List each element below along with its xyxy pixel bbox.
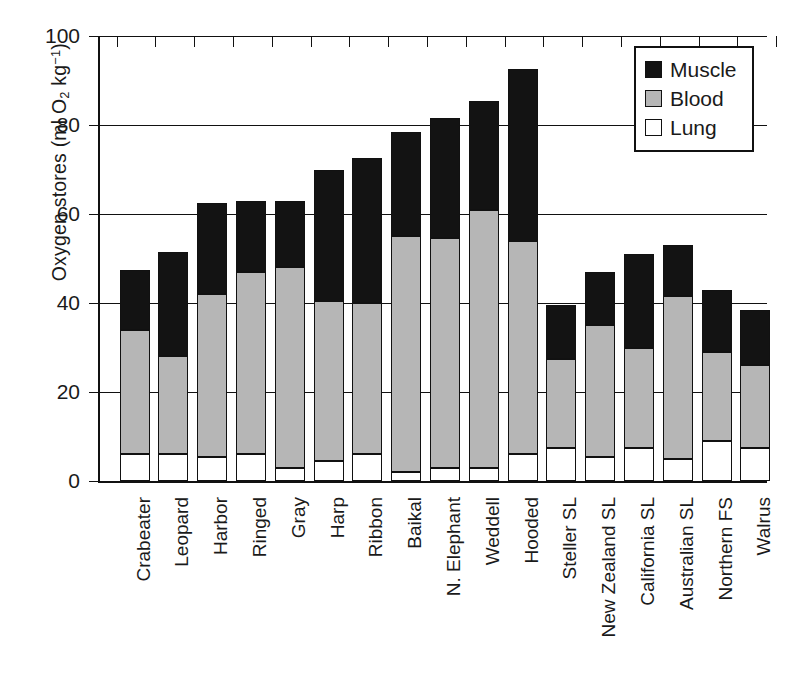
bar-hooded	[508, 69, 538, 481]
bar-segment-lung	[663, 459, 693, 481]
bar-ringed	[236, 201, 266, 481]
bar-segment-blood	[275, 267, 305, 467]
bar-segment-blood	[740, 365, 770, 447]
x-label-northern-fs: Northern FS	[715, 497, 737, 600]
x-tick-8	[427, 36, 428, 47]
bar-segment-lung	[275, 468, 305, 481]
x-label-harp: Harp	[327, 497, 349, 538]
legend-swatch-blood	[645, 90, 662, 107]
bar-segment-lung	[469, 468, 499, 481]
x-tick-6	[349, 36, 350, 47]
bar-segment-lung	[236, 454, 266, 481]
x-tick-11	[543, 36, 544, 47]
bar-leopard	[158, 252, 188, 481]
bar-segment-lung	[546, 448, 576, 481]
x-label-steller-sl: Steller SL	[559, 497, 581, 579]
x-label-australian-sl: Australian SL	[676, 497, 698, 610]
x-label-leopard: Leopard	[171, 497, 193, 567]
bar-segment-lung	[158, 454, 188, 481]
bar-segment-blood	[352, 303, 382, 454]
bar-segment-lung	[702, 441, 732, 481]
x-label-california-sl: California SL	[637, 497, 659, 606]
bar-segment-blood	[158, 356, 188, 454]
bar-segment-muscle	[508, 69, 538, 240]
bar-segment-lung	[197, 457, 227, 481]
legend-label-blood: Blood	[670, 88, 724, 109]
x-label-walrus: Walrus	[753, 497, 775, 555]
legend-item-blood: Blood	[645, 84, 744, 113]
bar-segment-lung	[508, 454, 538, 481]
bar-segment-muscle	[663, 245, 693, 296]
legend-item-muscle: Muscle	[645, 55, 744, 84]
legend-label-lung: Lung	[670, 117, 717, 138]
gridline-100	[100, 36, 767, 37]
x-tick-7	[388, 36, 389, 47]
legend: MuscleBloodLung	[634, 46, 754, 152]
x-tick-2	[194, 36, 195, 47]
x-tick-17	[776, 36, 777, 47]
bar-segment-muscle	[430, 118, 460, 238]
y-axis-title-mid: kg	[48, 65, 70, 92]
bar-segment-muscle	[585, 272, 615, 325]
bar-segment-lung	[120, 454, 150, 481]
x-tick-12	[582, 36, 583, 47]
bar-segment-lung	[740, 448, 770, 481]
x-label-harbor: Harbor	[210, 497, 232, 555]
y-tick-label-40: 40	[57, 291, 80, 315]
bar-segment-muscle	[740, 310, 770, 366]
x-tick-13	[621, 36, 622, 47]
bar-gray	[275, 201, 305, 481]
bar-segment-blood	[508, 241, 538, 455]
bar-segment-muscle	[275, 201, 305, 268]
bar-segment-blood	[469, 210, 499, 468]
bar-california-sl	[624, 254, 654, 481]
legend-item-lung: Lung	[645, 113, 744, 142]
bar-northern-fs	[702, 290, 732, 481]
bar-segment-blood	[314, 301, 344, 461]
bar-segment-blood	[702, 352, 732, 441]
bar-segment-blood	[430, 238, 460, 467]
x-label-crabeater: Crabeater	[133, 497, 155, 582]
y-tick-60: 60	[89, 214, 100, 215]
y-tick-label-0: 0	[68, 469, 80, 493]
bar-new-zealand-sl	[585, 272, 615, 481]
x-label-hooded: Hooded	[521, 497, 543, 564]
y-tick-100: 100	[89, 36, 100, 37]
bar-segment-blood	[197, 294, 227, 456]
bar-segment-blood	[585, 325, 615, 456]
x-label-n-elephant: N. Elephant	[443, 497, 465, 596]
bar-segment-blood	[546, 359, 576, 448]
y-tick-0: 0	[89, 481, 100, 482]
bar-segment-lung	[624, 448, 654, 481]
x-tick-10	[505, 36, 506, 47]
x-label-ribbon: Ribbon	[365, 497, 387, 557]
bar-segment-muscle	[546, 305, 576, 358]
bar-segment-lung	[430, 468, 460, 481]
bar-crabeater	[120, 270, 150, 481]
bar-segment-muscle	[314, 170, 344, 301]
legend-swatch-muscle	[645, 61, 662, 78]
x-label-baikal: Baikal	[404, 497, 426, 549]
x-label-new-zealand-sl: New Zealand SL	[598, 497, 620, 637]
x-tick-0	[117, 36, 118, 47]
x-tick-4	[272, 36, 273, 47]
bar-segment-blood	[120, 330, 150, 455]
x-label-gray: Gray	[288, 497, 310, 538]
bar-segment-blood	[663, 296, 693, 458]
bar-segment-muscle	[197, 203, 227, 294]
bar-segment-muscle	[702, 290, 732, 352]
x-label-weddell: Weddell	[482, 497, 504, 565]
bar-australian-sl	[663, 245, 693, 481]
y-axis-title: Oxygen stores (ml O2 kg−1)	[48, 0, 72, 372]
y-tick-80: 80	[89, 125, 100, 126]
y-tick-label-20: 20	[57, 380, 80, 404]
bar-baikal	[391, 132, 421, 481]
bar-n-elephant	[430, 118, 460, 481]
bar-harp	[314, 170, 344, 482]
oxygen-stores-stacked-bar-chart: Oxygen stores (ml O2 kg−1) 020406080100 …	[0, 0, 790, 674]
bar-walrus	[740, 310, 770, 481]
x-label-ringed: Ringed	[249, 497, 271, 557]
legend-swatch-lung	[645, 119, 662, 136]
x-tick-9	[466, 36, 467, 47]
bar-segment-lung	[314, 461, 344, 481]
